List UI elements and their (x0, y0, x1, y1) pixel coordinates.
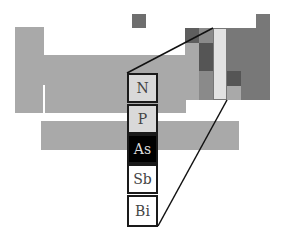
element-cell-sb: Sb (127, 164, 158, 194)
element-symbol: Sb (133, 171, 152, 187)
element-cell-bi: Bi (127, 195, 158, 227)
element-cell-p: P (127, 104, 158, 134)
element-cell-as: As (127, 134, 158, 164)
element-symbol: N (136, 80, 148, 96)
element-symbol: P (138, 111, 147, 127)
element-cell-n: N (127, 73, 158, 103)
element-symbol: As (134, 141, 151, 157)
element-symbol: Bi (135, 203, 150, 219)
